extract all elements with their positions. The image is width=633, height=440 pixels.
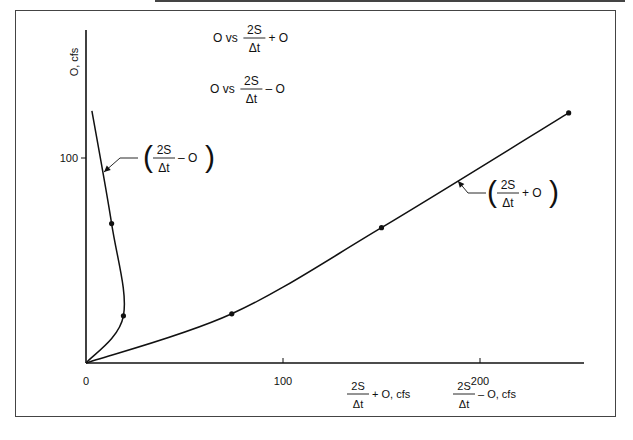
x-axis-label-plus: 2SΔt+ O, cfs — [347, 380, 411, 410]
fraction-numerator: 2S — [457, 380, 470, 392]
data-point — [379, 225, 384, 230]
paren-open: ( — [143, 140, 153, 173]
fraction-denominator: Δt — [353, 398, 363, 410]
fraction-denominator: Δt — [459, 398, 469, 410]
fraction-suffix: – O, cfs — [478, 388, 516, 400]
paren-close: ) — [205, 140, 215, 173]
fraction-denominator: Δt — [502, 196, 514, 210]
fraction-suffix: + O, cfs — [372, 388, 411, 400]
fraction-suffix: + O — [268, 31, 288, 45]
chart: 0100200100O, cfs O vs2SΔt+ OO vs2SΔt– O2… — [0, 0, 633, 440]
fraction-prefix: O vs — [210, 82, 235, 96]
fraction-denominator: Δt — [249, 41, 261, 55]
fraction-numerator: 2S — [501, 178, 516, 192]
data-point — [566, 110, 571, 115]
callout-minus: (2SΔt– O) — [104, 140, 215, 175]
fraction-denominator: Δt — [158, 161, 170, 175]
fraction-numerator: 2S — [247, 23, 262, 37]
arrow-head — [458, 181, 464, 188]
x-tick-label: 100 — [274, 375, 292, 387]
legend-entry-minus: O vs2SΔt– O — [210, 74, 285, 106]
fraction-prefix: O vs — [213, 31, 238, 45]
series-minus-line — [86, 111, 124, 363]
fraction-numerator: 2S — [351, 380, 364, 392]
fraction-suffix: – O — [265, 82, 284, 96]
y-axis-label: O, cfs — [68, 47, 80, 76]
fraction-suffix: – O — [178, 151, 197, 165]
callout-fraction: 2SΔt+ O — [497, 178, 542, 210]
paren-open: ( — [487, 175, 497, 208]
paren-close: ) — [549, 175, 559, 208]
legend-entry-plus: O vs2SΔt+ O — [213, 23, 288, 55]
callout-fraction: 2SΔt– O — [153, 143, 197, 175]
data-point — [121, 313, 126, 318]
data-point — [109, 221, 114, 226]
data-point — [229, 311, 234, 316]
x-tick-label: 200 — [471, 375, 489, 387]
fraction-numerator: 2S — [157, 143, 172, 157]
fraction-denominator: Δt — [246, 92, 258, 106]
y-tick-label: 100 — [60, 152, 78, 164]
x-tick-label: 0 — [83, 375, 89, 387]
fraction-suffix: + O — [522, 186, 542, 200]
leader-line — [458, 181, 486, 193]
fraction-numerator: 2S — [244, 74, 259, 88]
callout-plus: (2SΔt+ O) — [458, 175, 559, 210]
